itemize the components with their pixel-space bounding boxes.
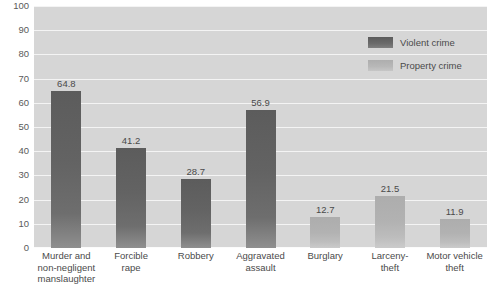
y-axis-tick-label: 0 [1,243,29,253]
x-axis-category-label: Motor vehicle theft [419,250,490,273]
y-axis-tick-label: 10 [1,219,29,229]
x-axis-category-label: Aggravated assault [225,250,296,273]
bar-chart: 1009080706050403020100 64.841.228.756.91… [0,0,495,295]
bar[interactable] [116,148,146,248]
y-axis: 1009080706050403020100 [0,0,33,255]
x-axis-category-label: Larceny- theft [355,250,426,273]
legend-item-violent[interactable]: Violent crime [368,34,486,51]
legend-item-property[interactable]: Property crime [368,57,486,74]
bar[interactable] [310,217,340,248]
bar[interactable] [181,179,211,248]
legend-swatch-icon [368,37,393,48]
y-axis-tick-label: 80 [1,49,29,59]
bar-value-label: 28.7 [172,166,220,177]
y-axis-tick-label: 20 [1,195,29,205]
bar[interactable] [375,196,405,248]
bar-value-label: 12.7 [301,204,349,215]
bar[interactable] [246,110,276,248]
y-axis-tick-label: 30 [1,170,29,180]
chart-legend: Violent crimeProperty crime [368,34,486,80]
legend-swatch-icon [368,60,393,71]
x-axis-category-label: Murder and non-negligent manslaughter [31,250,102,285]
bar-value-label: 21.5 [366,183,414,194]
y-axis-tick-label: 90 [1,25,29,35]
bar-value-label: 64.8 [42,78,90,89]
x-axis-category-label: Robbery [160,250,231,262]
bar-value-label: 41.2 [107,135,155,146]
bar[interactable] [51,91,81,248]
y-axis-tick-label: 50 [1,122,29,132]
legend-item-label: Violent crime [400,37,455,48]
bar-value-label: 11.9 [431,206,479,217]
x-axis-category-label: Burglary [290,250,361,262]
y-axis-tick-label: 70 [1,74,29,84]
legend-item-label: Property crime [400,60,462,71]
bar[interactable] [440,219,470,248]
y-axis-tick-label: 100 [1,1,29,11]
y-axis-tick-label: 60 [1,98,29,108]
bar-value-label: 56.9 [237,97,285,108]
x-axis-category-label: Forcible rape [96,250,167,273]
x-axis: Murder and non-negligent manslaughterFor… [34,250,487,295]
y-axis-tick-label: 40 [1,146,29,156]
